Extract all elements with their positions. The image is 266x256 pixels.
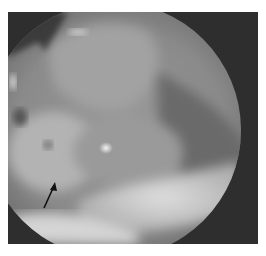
footer-artifacts [160, 247, 260, 253]
endoscopic-scene [8, 12, 258, 244]
endoscopic-image [8, 12, 258, 244]
